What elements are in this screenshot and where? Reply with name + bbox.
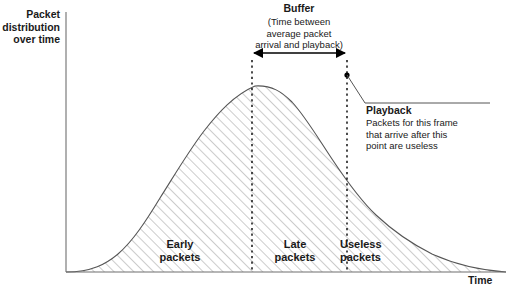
playback-annotation-description: Packets for this frame that arrive after… — [366, 117, 458, 152]
diagram-canvas: Packet distribution over time Buffer (Ti… — [0, 0, 512, 292]
region-label-useless-packets: Useless packets — [340, 238, 416, 264]
playback-leader-line — [347, 75, 490, 103]
region-label-late-packets: Late packets — [255, 238, 335, 264]
playback-annotation-title: Playback — [366, 105, 412, 117]
y-axis-title: Packet distribution over time — [0, 8, 60, 46]
buffer-annotation-description: (Time between average packet arrival and… — [239, 16, 359, 51]
region-label-early-packets: Early packets — [140, 238, 220, 264]
x-axis-title: Time — [468, 275, 492, 287]
buffer-annotation-title: Buffer — [244, 3, 354, 15]
